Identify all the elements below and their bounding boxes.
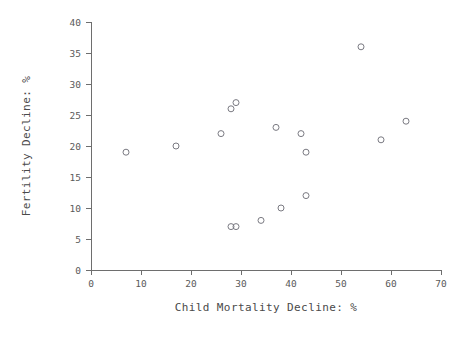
y-axis-tick-label: 35	[70, 48, 81, 59]
x-axis-tick-label: 50	[335, 278, 347, 289]
data-point	[303, 193, 309, 199]
y-axis-tick-label: 0	[75, 265, 81, 276]
data-point	[173, 143, 179, 149]
data-point	[303, 149, 309, 155]
data-point-group	[123, 44, 409, 230]
y-axis-tick-group: 0510152025303540	[70, 17, 91, 276]
data-point	[258, 217, 264, 223]
x-axis-tick-group: 010203040506070	[88, 270, 447, 289]
y-axis-tick-label: 20	[70, 141, 82, 152]
y-axis-tick-label: 30	[70, 79, 82, 90]
y-axis-tick-label: 25	[70, 110, 81, 121]
scatter-plot: 0510152025303540 010203040506070 Child M…	[0, 0, 466, 337]
data-point	[233, 100, 239, 106]
data-point	[228, 106, 234, 112]
data-point	[123, 149, 129, 155]
x-axis-tick-label: 60	[385, 278, 397, 289]
x-axis-tick-label: 30	[235, 278, 247, 289]
data-point	[273, 124, 279, 130]
chart-page: 0510152025303540 010203040506070 Child M…	[0, 0, 466, 337]
y-axis-title: Fertility Decline: %	[20, 76, 33, 216]
x-axis-tick-label: 40	[285, 278, 297, 289]
x-axis-tick-label: 70	[435, 278, 447, 289]
data-point	[358, 44, 364, 50]
data-point	[403, 118, 409, 124]
y-axis-tick-label: 5	[75, 234, 81, 245]
x-axis-title: Child Mortality Decline: %	[175, 301, 358, 314]
data-point	[378, 137, 384, 143]
x-axis-tick-label: 20	[185, 278, 197, 289]
x-axis-tick-label: 10	[135, 278, 147, 289]
y-axis-tick-label: 40	[70, 17, 82, 28]
data-point	[278, 205, 284, 211]
data-point	[218, 131, 224, 137]
x-axis-tick-label: 0	[88, 278, 94, 289]
y-axis-tick-label: 15	[70, 172, 81, 183]
y-axis-tick-label: 10	[70, 203, 82, 214]
data-point	[298, 131, 304, 137]
